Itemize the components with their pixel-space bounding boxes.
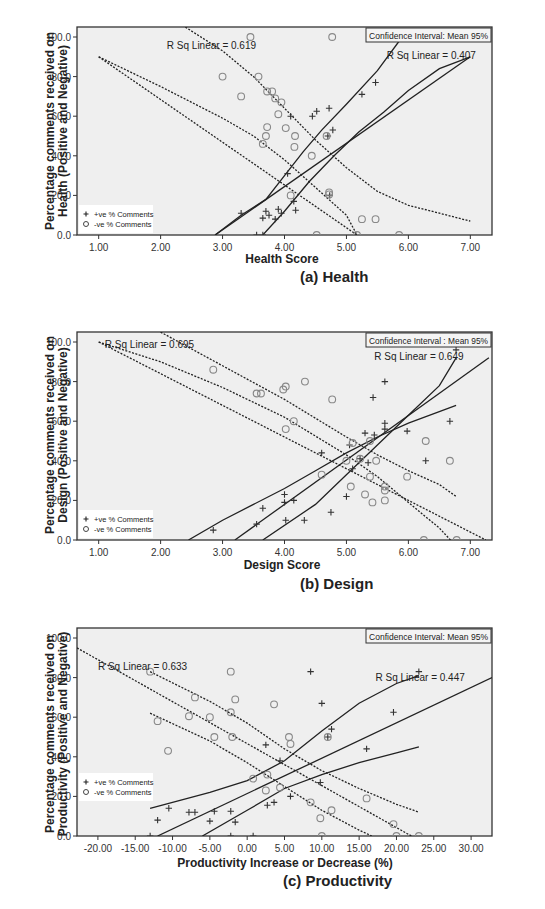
- x-axis-label: Design Score: [182, 558, 382, 572]
- x-tick-label: 6.00: [399, 547, 419, 558]
- y-axis-label: Percentage comments received on Health (…: [44, 16, 70, 246]
- x-tick-label: 2.00: [151, 547, 171, 558]
- legend-label: +ve % Comments: [94, 778, 154, 787]
- x-tick-label: 1.00: [89, 547, 109, 558]
- x-tick-label: 25.00: [421, 843, 446, 854]
- x-tick-label: 1.00: [89, 242, 109, 253]
- legend-label: -ve % Comments: [94, 788, 152, 797]
- r-squared-annotation: R Sq Linear = 0.649: [374, 351, 464, 362]
- x-tick-label: 2.00: [151, 242, 171, 253]
- x-tick-label: 4.00: [275, 547, 295, 558]
- x-tick-label: -15.00: [121, 843, 150, 854]
- legend-label: -ve % Comments: [94, 525, 152, 534]
- y-axis-label-line2: Design (Positive and Negative): [57, 320, 70, 550]
- chart-panel-health: 0.020.040.060.080.0100.01.002.003.004.00…: [0, 0, 545, 300]
- legend-label: +ve % Comments: [94, 515, 154, 524]
- confidence-interval-label: Confidence Interval : Mean 95%: [369, 336, 488, 346]
- x-tick-label: 3.00: [213, 547, 233, 558]
- r-squared-annotation: R Sq Linear = 0.407: [387, 50, 477, 61]
- chart-panel-design: 0.020.040.060.080.0100.01.002.003.004.00…: [0, 305, 545, 605]
- x-axis-label: Health Score: [182, 252, 382, 266]
- confidence-interval-label: Confidence Interval: Mean 95%: [369, 632, 488, 642]
- r-squared-annotation: R Sq Linear = 0.619: [167, 40, 257, 51]
- chart-panel-productivity: 0.020.040.060.080.0100.0-20.00-15.00-10.…: [0, 601, 545, 901]
- x-tick-label: 5.00: [337, 547, 357, 558]
- x-tick-label: 15.00: [347, 843, 372, 854]
- x-tick-label: -10.00: [158, 843, 187, 854]
- r-squared-annotation: R Sq Linear = 0.633: [98, 661, 188, 672]
- y-axis-label-line2: Productivity (Positive and Negative): [57, 619, 70, 849]
- chart-caption: (b) Design: [300, 575, 373, 592]
- y-axis-label: Percentage comments received on Design (…: [44, 320, 70, 550]
- y-axis-label: Percentage comments received on Producti…: [44, 619, 70, 849]
- x-tick-label: 30.00: [459, 843, 484, 854]
- x-tick-label: 5.00: [275, 843, 295, 854]
- x-tick-label: 10.00: [309, 843, 334, 854]
- confidence-interval-label: Confidence Interval: Mean 95%: [369, 31, 488, 41]
- x-tick-label: 0.00: [237, 843, 257, 854]
- x-tick-label: -5.00: [198, 843, 221, 854]
- chart-caption: (a) Health: [300, 268, 368, 285]
- x-tick-label: 7.00: [461, 547, 481, 558]
- legend-label: +ve % Comments: [94, 210, 154, 219]
- x-tick-label: 20.00: [384, 843, 409, 854]
- x-axis-label: Productivity Increase or Decrease (%): [150, 856, 420, 870]
- y-axis-label-line2: Health (Positive and Negative): [57, 16, 70, 246]
- legend-label: -ve % Comments: [94, 220, 152, 229]
- plot-area: [77, 628, 492, 836]
- x-tick-label: -20.00: [84, 843, 113, 854]
- chart-caption: (c) Productivity: [283, 872, 392, 889]
- x-tick-label: 6.00: [399, 242, 419, 253]
- x-tick-label: 7.00: [461, 242, 481, 253]
- r-squared-annotation: R Sq Linear = 0.447: [376, 672, 466, 683]
- r-squared-annotation: R Sq Linear = 0.695: [105, 339, 195, 350]
